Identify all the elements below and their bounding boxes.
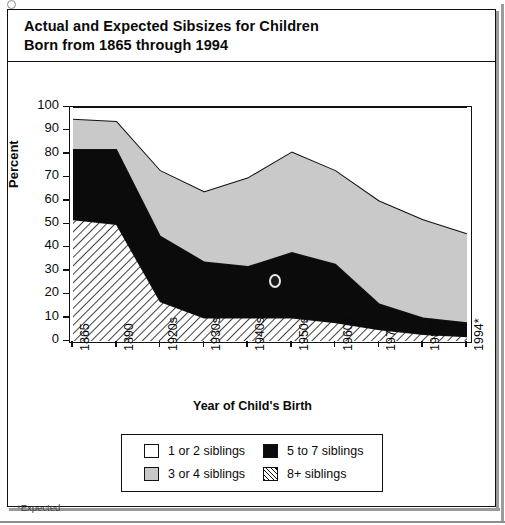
x-tick-label-7: 1973* <box>384 318 398 351</box>
y-tick-label-30: 30 <box>27 261 59 276</box>
x-tick-mark-6 <box>334 341 336 347</box>
legend-label-5-to-7-siblings: 5 to 7 siblings <box>287 444 363 458</box>
x-tick-mark-3 <box>203 341 205 347</box>
x-tick-label-6: 1960s <box>341 317 355 351</box>
legend-label-1-or-2-siblings: 1 or 2 siblings <box>168 444 245 458</box>
x-tick-mark-8 <box>421 341 423 347</box>
page-root: Actual and Expected Sibsizes for Childre… <box>0 0 505 525</box>
x-tick-mark-4 <box>246 341 248 347</box>
y-tick-label-0: 0 <box>27 331 59 346</box>
legend-item-1-or-2-siblings: 1 or 2 siblings <box>144 444 245 458</box>
legend-swatch-gray-icon <box>144 467 159 481</box>
x-tick-mark-2 <box>159 341 161 347</box>
y-axis-title: Percent <box>6 140 21 188</box>
title-line-2: Born from 1865 through 1994 <box>24 36 319 55</box>
y-tick-label-10: 10 <box>27 308 59 323</box>
scan-artifact-blob <box>269 274 281 288</box>
legend-swatch-hatch-icon <box>263 467 278 481</box>
x-tick-label-3: 1930s <box>209 317 223 351</box>
y-tick-label-40: 40 <box>27 237 59 252</box>
card-shadow-bottom <box>9 508 500 511</box>
x-tick-label-8: 1983* <box>428 318 442 351</box>
legend-label-3-or-4-siblings: 3 or 4 siblings <box>168 467 245 481</box>
title-line-1: Actual and Expected Sibsizes for Childre… <box>24 17 319 36</box>
legend-swatch-white-icon <box>144 444 159 458</box>
x-axis-title: Year of Child's Birth <box>8 399 497 413</box>
x-tick-mark-1 <box>115 341 117 347</box>
y-tick-label-80: 80 <box>27 144 59 159</box>
legend-item-3-or-4-siblings: 3 or 4 siblings <box>144 467 245 481</box>
x-tick-label-9: 1994* <box>472 318 486 351</box>
scan-artifact-speck <box>7 0 16 9</box>
legend-label-8plus-siblings: 8+ siblings <box>287 467 346 481</box>
x-tick-label-0: 1865 <box>78 323 92 351</box>
y-tick-label-100: 100 <box>27 97 59 112</box>
page-right-edge <box>501 4 504 523</box>
x-tick-label-1: 1890 <box>122 323 136 351</box>
x-tick-label-2: 1920s <box>166 317 180 351</box>
title-bar: Actual and Expected Sibsizes for Childre… <box>8 10 495 62</box>
card-shadow-right <box>496 11 499 510</box>
footnote: *Expected <box>17 502 60 513</box>
y-tick-label-50: 50 <box>27 214 59 229</box>
page-bottom-edge <box>0 521 505 523</box>
legend-item-8plus-siblings: 8+ siblings <box>263 467 346 481</box>
x-tick-mark-9 <box>465 341 467 347</box>
x-tick-label-4: 1940s <box>253 317 267 351</box>
y-tick-label-60: 60 <box>27 191 59 206</box>
page-title: Actual and Expected Sibsizes for Childre… <box>24 17 319 55</box>
stacked-area-chart <box>70 107 470 341</box>
x-tick-label-5: 1950s <box>297 317 311 351</box>
x-tick-mark-7 <box>378 341 380 347</box>
legend-swatch-black-icon <box>263 444 278 458</box>
plot-area <box>69 106 472 343</box>
y-tick-label-70: 70 <box>27 167 59 182</box>
legend-item-5-to-7-siblings: 5 to 7 siblings <box>263 444 363 458</box>
y-tick-label-20: 20 <box>27 284 59 299</box>
y-tick-label-90: 90 <box>27 120 59 135</box>
chart-legend: 1 or 2 siblings 3 or 4 siblings 5 to 7 s… <box>121 434 383 492</box>
chart-card: Actual and Expected Sibsizes for Childre… <box>7 9 496 507</box>
x-tick-mark-5 <box>290 341 292 347</box>
x-tick-mark-0 <box>71 341 73 347</box>
